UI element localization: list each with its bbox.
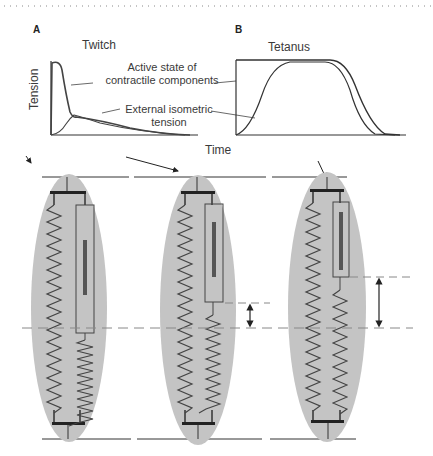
arrow-to-twitch-model [126,157,178,171]
twitch-model [160,175,236,445]
tetanus-chart [236,60,406,135]
tetanus-model [288,172,366,442]
twitch-chart [51,61,255,135]
resting-model [31,174,107,442]
diagram-canvas [0,0,433,456]
arrow-to-resting-model [26,156,31,163]
